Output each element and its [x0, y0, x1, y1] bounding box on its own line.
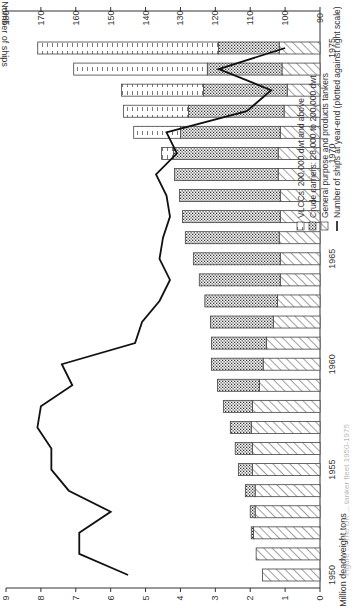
bar-segment: [245, 485, 255, 497]
bar-segment: [273, 316, 320, 328]
legend-entry: Number of ships at year-end (plotted aga…: [332, 6, 342, 218]
right-tick-label: 110: [245, 11, 255, 25]
year-tick-label: 1960: [327, 354, 337, 374]
left-tick-label: 6: [106, 595, 116, 600]
year-tick-label: 1965: [327, 249, 337, 269]
bar-segment: [203, 84, 287, 96]
bar-segment: [256, 548, 320, 560]
left-tick-label: 2: [245, 595, 255, 600]
bar-segment: [251, 527, 253, 539]
left-tick-label: 7: [71, 595, 81, 600]
left-tick-label: 3: [210, 595, 220, 600]
left-tick-label: 1: [280, 595, 290, 600]
bar-segment: [175, 168, 279, 180]
bar-segment: [185, 232, 279, 244]
left-tick-label: 0: [315, 595, 325, 600]
year-tick-label: 1955: [327, 460, 337, 480]
bar-segment: [121, 84, 203, 96]
bar-segment: [279, 42, 320, 54]
bar-segment: [179, 190, 280, 202]
bar-segment: [262, 569, 320, 581]
bar-segment: [255, 485, 320, 497]
bar-segment: [38, 42, 219, 54]
right-tick-label: 160: [71, 10, 81, 25]
bar-segment: [211, 358, 263, 370]
bar-segment: [193, 253, 280, 265]
right-tick-label: 140: [141, 10, 151, 25]
bar-segment: [74, 63, 208, 75]
left-tick-label: 4: [175, 595, 185, 600]
bar-segment: [282, 63, 320, 75]
bar-segment: [217, 379, 259, 391]
bar-segment: [180, 126, 280, 138]
bar-segment: [251, 421, 320, 433]
left-tick-label: 5: [141, 595, 151, 600]
legend-entry: VLCCs: 200,000 dwt and above: [296, 98, 306, 218]
bars: [38, 42, 320, 581]
chart-figure: 0123456789901001101201301401501601701801…: [0, 0, 352, 616]
right-tick-label: 170: [36, 10, 46, 25]
left-tick-label: 9: [1, 595, 11, 600]
bar-segment: [259, 379, 320, 391]
right-tick-label: 130: [175, 10, 185, 25]
bar-segment: [253, 527, 320, 539]
bar-segment: [280, 274, 320, 286]
right-tick-label: 100: [280, 10, 290, 25]
bar-segment: [277, 295, 320, 307]
bar-segment: [188, 105, 284, 117]
bar-segment: [252, 443, 320, 455]
bar-segment: [235, 443, 252, 455]
bar-segment: [263, 358, 320, 370]
bar-segment: [183, 211, 281, 223]
right-tick-label: 150: [106, 10, 116, 25]
bar-segment: [205, 295, 278, 307]
year-tick-label: 1950: [327, 565, 337, 585]
left-tick-label: 8: [36, 595, 46, 600]
stacked-bar-line-chart: 0123456789901001101201301401501601701801…: [0, 0, 352, 616]
bar-segment: [210, 316, 273, 328]
bar-segment: [134, 126, 181, 138]
bar-segment: [173, 147, 278, 159]
right-axis-title: Number of ships: [0, 1, 10, 67]
bar-segment: [238, 464, 252, 476]
bar-segment: [124, 105, 189, 117]
bar-segment: [252, 464, 320, 476]
right-tick-label: 120: [210, 10, 220, 25]
legend-entry: Crude carriers: 28,000 to 200,000 dwt: [308, 75, 318, 218]
bar-segment: [230, 421, 251, 433]
bar-segment: [199, 274, 280, 286]
bar-segment: [279, 232, 320, 244]
bar-segment: [252, 400, 320, 412]
bar-segment: [250, 506, 255, 518]
bar-segment: [255, 506, 320, 518]
bar-segment: [211, 337, 266, 349]
legend-entry: General purpose and products tankers: [320, 73, 330, 218]
bar-segment: [266, 337, 320, 349]
bar-segment: [223, 400, 252, 412]
figure-caption: Figure ... The UK ... tanker fleet 1950-…: [342, 424, 351, 576]
right-tick-label: 90: [315, 13, 325, 23]
bar-segment: [280, 253, 320, 265]
